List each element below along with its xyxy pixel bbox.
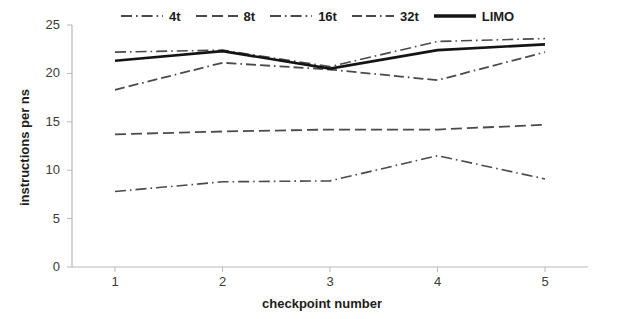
series-line-8t (115, 125, 545, 135)
x-tick-label-1: 1 (100, 274, 130, 289)
x-tick-label-2: 2 (208, 274, 238, 289)
x-tick-label-3: 3 (315, 274, 345, 289)
series-line-4t (115, 156, 545, 192)
chart-container: 4t8t16t32tLIMO instructions per ns check… (0, 0, 629, 319)
series-line-limo (115, 44, 545, 68)
x-tick-label-5: 5 (530, 274, 560, 289)
series-line-16t (115, 39, 545, 67)
series-line-32t (115, 52, 545, 90)
x-tick-label-4: 4 (423, 274, 453, 289)
plot-area (0, 0, 629, 319)
series-lines (115, 39, 545, 192)
axis-lines (67, 25, 588, 272)
